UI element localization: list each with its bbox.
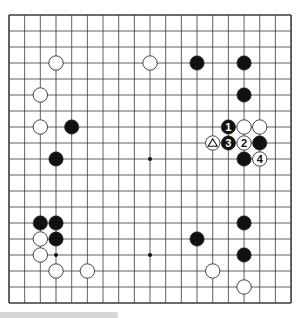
move-number: 1 bbox=[225, 121, 231, 133]
go-board-grid[interactable]: 1324 bbox=[0, 0, 298, 318]
white-stone bbox=[33, 248, 47, 262]
black-stone: 3 bbox=[221, 136, 235, 150]
white-stone bbox=[206, 264, 220, 278]
black-stone bbox=[49, 216, 63, 230]
white-stone bbox=[33, 120, 47, 134]
black-stone bbox=[237, 152, 251, 166]
white-stone bbox=[33, 232, 47, 246]
black-stone bbox=[237, 56, 251, 70]
black-stone bbox=[190, 232, 204, 246]
black-stone bbox=[237, 216, 251, 230]
black-stone bbox=[253, 136, 267, 150]
white-stone bbox=[33, 88, 47, 102]
black-stone bbox=[49, 232, 63, 246]
white-stone bbox=[49, 56, 63, 70]
black-stone bbox=[237, 88, 251, 102]
move-number: 3 bbox=[225, 137, 231, 149]
white-stone bbox=[237, 280, 251, 294]
black-stone bbox=[49, 152, 63, 166]
white-stone: 2 bbox=[237, 136, 251, 150]
white-stone: 4 bbox=[253, 152, 267, 166]
white-stone bbox=[80, 264, 94, 278]
white-stone bbox=[49, 264, 63, 278]
star-point bbox=[148, 253, 152, 257]
white-stone bbox=[237, 120, 251, 134]
black-stone bbox=[190, 56, 204, 70]
star-point bbox=[148, 157, 152, 161]
go-board[interactable]: 1324 bbox=[0, 0, 298, 318]
star-point bbox=[54, 253, 58, 257]
white-stone bbox=[253, 120, 267, 134]
move-number: 2 bbox=[241, 137, 247, 149]
black-stone: 1 bbox=[221, 120, 235, 134]
white-stone bbox=[206, 136, 220, 150]
white-stone bbox=[143, 56, 157, 70]
black-stone bbox=[33, 216, 47, 230]
bottom-bar bbox=[0, 312, 118, 318]
black-stone bbox=[237, 248, 251, 262]
black-stone bbox=[64, 120, 78, 134]
move-number: 4 bbox=[257, 153, 264, 165]
